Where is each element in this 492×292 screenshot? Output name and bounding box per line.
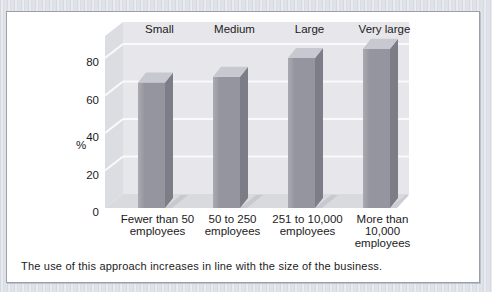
y-tick-label-40: 40 [86,131,99,143]
x-axis-label-0: Fewer than 50employees [121,213,195,237]
x-axis-label-1: 50 to 250employees [205,213,261,237]
page-background: 020406080%SmallMediumLargeVery largeFewe… [0,0,492,292]
bar-side-face [390,39,398,208]
size-label-medium: Medium [214,23,255,35]
bar-front-face [138,82,165,208]
y-tick-label-20: 20 [86,169,99,181]
y-axis-label: % [76,139,86,151]
bar-front-face [213,77,240,208]
bar-side-face [240,67,248,208]
y-tick-label-80: 80 [86,56,99,68]
size-label-small: Small [145,23,174,35]
figure-caption: The use of this approach increases in li… [21,260,471,272]
y-tick-label-60: 60 [86,94,99,106]
bar-front-face [288,58,315,208]
x-axis-label-3: More than10,000employees [355,213,411,249]
size-label-very-large: Very large [359,23,411,35]
size-label-large: Large [295,23,324,35]
y-tick-label-0: 0 [93,206,99,218]
bar-side-face [165,72,173,208]
bar-front-face [363,49,390,208]
figure-panel: 020406080%SmallMediumLargeVery largeFewe… [6,11,480,283]
x-axis-label-2: 251 to 10,000employees [272,213,342,237]
bar-chart: 020406080%SmallMediumLargeVery largeFewe… [7,12,479,260]
bar-side-face [315,48,323,208]
